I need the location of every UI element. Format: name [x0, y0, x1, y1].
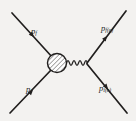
label-momentum-upper-left: pf [31, 27, 37, 37]
label-momentum-upper-right: pf(e) [101, 24, 113, 34]
line-outgoing-fermion-upper-right [87, 11, 126, 63]
label-momentum-lower-left: pi [26, 85, 32, 95]
label-pf-subscript: f [35, 30, 37, 36]
label-pie-paren: (e) [105, 87, 111, 93]
diagram-canvas [0, 0, 136, 121]
photon-wavy-propagator [67, 61, 88, 66]
label-momentum-lower-right: pi(e) [99, 84, 111, 94]
feynman-diagram-figure: pf pf(e) pi pi(e) [0, 0, 136, 121]
label-pi-subscript: i [30, 88, 32, 94]
label-pfe-paren: (e) [107, 27, 113, 33]
